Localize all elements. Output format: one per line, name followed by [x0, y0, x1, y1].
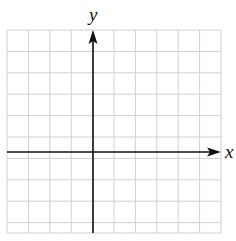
x-axis-label: x	[225, 141, 233, 163]
y-axis	[89, 30, 98, 233]
y-axis-label: y	[89, 4, 97, 26]
grid	[7, 30, 221, 233]
coordinate-plane	[0, 0, 236, 241]
